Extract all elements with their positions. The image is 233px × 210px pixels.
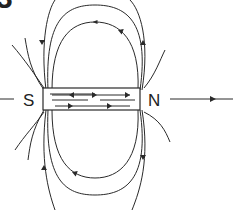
arrow-right-icon (210, 96, 216, 102)
north-pole-label: N (148, 91, 160, 110)
south-pole-label: S (23, 91, 34, 110)
figure-number-label: 3 (0, 0, 13, 14)
bar-magnet (43, 88, 140, 110)
bar-magnet-field-diagram: 3 S (0, 0, 233, 210)
